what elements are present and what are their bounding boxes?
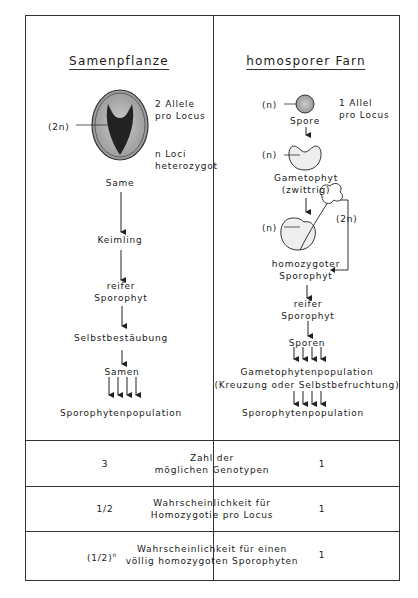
spore-ploidy: (n) [262,99,277,111]
row1-left: 3 [102,458,109,470]
gametophyte-label: Gametophyt [274,172,338,184]
loci-note: heterozygot [155,160,218,172]
row1-label: Zahl der [190,452,234,464]
row1-label: möglichen Genotypen [155,464,269,476]
gam-population: Gametophytenpopulation [241,366,374,378]
seed-ploidy-label: (2n) [48,121,70,133]
allele-note: 2 Allele [155,98,195,110]
step-selfing: Selbstbestäubung [74,332,168,344]
allele-note-right: 1 Allel [339,97,372,109]
row2-right: 1 [319,503,326,515]
mature-label: reifer [294,298,323,310]
left-title: Samenpflanze [69,55,169,70]
spores-label: Sporen [289,337,325,349]
sporophyte-label: Sporophyt [279,270,332,282]
row1-right: 1 [319,458,326,470]
row3-left-exp: n [112,551,117,558]
step-population: Sporophytenpopulation [60,407,182,419]
step-mature: reifer [107,280,136,292]
gametophyte-type: (zwittrig) [282,184,331,196]
allele-note: pro Locus [155,110,206,122]
step-seeds: Samen [104,366,139,378]
step-seed: Same [106,177,135,189]
homozygous-label: homozygoter [272,258,340,270]
row2-label: Homozygotie pro Locus [151,509,273,521]
loci-note: n Loci [155,148,186,160]
spor-population: Sporophytenpopulation [242,407,364,419]
spore-label: Spore [290,115,320,127]
row3-label: völlig homozygoten Sporophyten [126,555,299,567]
row2-left: 1/2 [97,503,114,515]
gam-population-note: (Kreuzung oder Selbstbefruchtung) [215,379,400,391]
mature-sporophyte: Sporophyt [281,310,334,322]
row2-label: Wahrscheinlichkeit für [153,497,270,509]
row3-left-base: (1/2) [87,553,113,563]
step-sporophyte: Sporophyt [94,292,147,304]
sporophyte-gam-ploidy: (n) [262,222,277,234]
step-seedling: Keimling [97,234,142,246]
seed-icon [76,90,148,160]
sporophyte-ploidy: (2n) [336,213,358,225]
allele-note-right: pro Locus [339,109,390,121]
right-title: homosporer Farn [246,55,365,70]
row3-right: 1 [319,549,326,561]
gametophyte-ploidy: (n) [262,149,277,161]
row3-left: (1/2)n [87,549,117,564]
row3-label: Wahrscheinlichkeit für einen [137,543,287,555]
